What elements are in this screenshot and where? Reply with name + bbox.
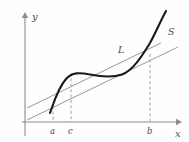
tangent-line-s (27, 47, 178, 120)
x-axis-arrow-icon (176, 119, 182, 125)
figure-canvas: y x a c b L S (0, 0, 189, 142)
y-axis-arrow-icon (22, 12, 28, 18)
y-axis-label: y (31, 11, 38, 22)
tick-label-a: a (50, 126, 55, 136)
tick-label-c: c (68, 126, 73, 136)
x-axis-label: x (175, 128, 181, 139)
tick-label-b: b (147, 126, 152, 136)
label-line-l: L (117, 44, 124, 55)
math-figure: y x a c b L S (0, 0, 189, 142)
label-line-s: S (168, 26, 175, 37)
function-curve (50, 11, 166, 113)
